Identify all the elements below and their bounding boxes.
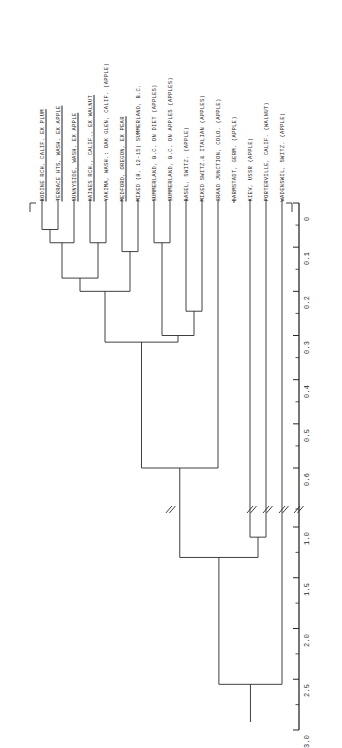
leaf-label: SUMMERLAND, B.C. ON APPLES (APPLES) xyxy=(167,77,173,201)
axis-tick-label: 3.0 xyxy=(304,735,311,748)
leaf-label: TERRACE HTS, WASH. EX APPLE xyxy=(55,106,61,202)
leaf-label: BASEL, SWITZ. (APPLE) xyxy=(183,127,189,202)
leaf-label: SUMMERLAND, B.C. ON DIET (APPLES) xyxy=(151,84,157,201)
axis-tick-label: 0.4 xyxy=(304,384,311,397)
axis-tick-label: 0.6 xyxy=(304,473,311,486)
axis-tick-label: 1.5 xyxy=(304,583,311,596)
leaf-label: PORTERVILLE, CALIF. (WALNUT) xyxy=(263,102,269,201)
axis-tick-label: 2.5 xyxy=(304,684,311,697)
leaf-label: DARMSTADT, GERM. (APPLE) xyxy=(231,116,237,201)
leaf-label: WADENSWIL, SWITZ. (APPLE) xyxy=(279,113,285,202)
axis-tick-label: 0.3 xyxy=(304,340,311,353)
leaf-label: SUNNYSIDE, WASH. EX APPLE xyxy=(71,113,77,202)
leaf-label: GRAND JUNCTION, COLO. (APPLE) xyxy=(215,99,221,202)
axis-tick-label: 0.2 xyxy=(304,296,311,309)
leaf-label: YAKIMA, WASH.: OAK GLEN, CALIF. (APPLE) xyxy=(103,63,109,201)
leaf-label: BODINE RCH, CALIF. EX PLUM xyxy=(39,109,45,201)
axis-tick-label: 0.5 xyxy=(304,429,311,442)
axis-tick-label: 1.0 xyxy=(304,532,311,545)
leaf-label: MIXED SWITZ.& ITALIAN (APPLES) xyxy=(199,95,205,202)
leaf-label: MEDFORD, OREGON, EX PEAR xyxy=(119,116,125,201)
branch-break-mark xyxy=(279,506,289,513)
leaf-label: MIXED (8, 12-15) SUMMERLAND, B.C. xyxy=(135,84,141,201)
axis-tick-label: 2.0 xyxy=(304,633,311,646)
leaf-label: HAINES RCH., CALIF., EX WALNUT xyxy=(87,95,93,202)
branch-break-mark xyxy=(247,506,257,513)
axis-tick-label: 0.1 xyxy=(304,252,311,265)
leaf-label: KIEV, USSR (APPLE) xyxy=(247,138,253,202)
axis-tick-label: 0 xyxy=(304,217,311,221)
branch-break-mark xyxy=(166,506,176,513)
branch-break-mark xyxy=(263,506,273,513)
